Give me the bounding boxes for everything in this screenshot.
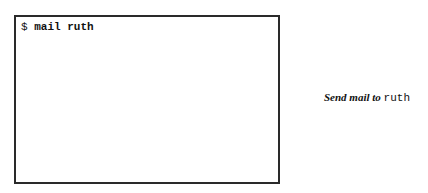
shell-prompt: $ xyxy=(21,21,34,33)
terminal-window: $ mail ruth xyxy=(14,15,280,184)
command-line: $ mail ruth xyxy=(21,21,94,33)
caption-argument: ruth xyxy=(384,92,410,104)
typed-command: mail ruth xyxy=(34,21,93,33)
caption-text: Send mail to xyxy=(324,91,384,103)
annotation-caption: Send mail to ruth xyxy=(324,91,410,104)
